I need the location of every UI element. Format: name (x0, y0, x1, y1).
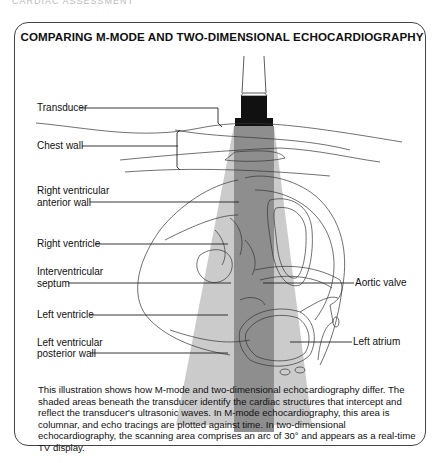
label-chest-wall: Chest wall (37, 140, 83, 152)
label-rv-anterior-wall-line2: anterior wall (37, 197, 91, 209)
label-lv-posterior-wall-line2: posterior wall (37, 348, 96, 360)
label-right-ventricle: Right ventricle (37, 238, 100, 250)
transducer-icon (235, 56, 273, 126)
label-septum-line2: septum (37, 278, 70, 290)
chest-wall-lines (36, 123, 402, 176)
label-left-ventricle: Left ventricle (37, 309, 94, 321)
label-rv-anterior-wall-line1: Right ventricular (37, 185, 109, 197)
label-septum-line1: Interventricular (37, 266, 103, 278)
label-lv-posterior-wall-line1: Left ventricular (37, 337, 103, 349)
label-left-atrium: Left atrium (353, 336, 400, 348)
label-aortic-valve: Aortic valve (355, 277, 407, 289)
figure-caption: This illustration shows how M-mode and t… (38, 384, 418, 454)
label-transducer: Transducer (37, 102, 87, 114)
